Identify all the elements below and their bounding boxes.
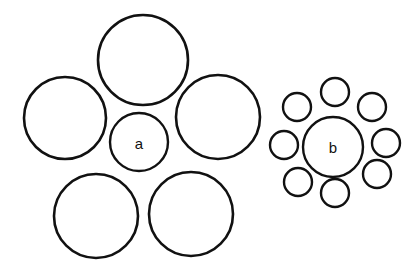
inducer-b-right-circle — [372, 129, 400, 157]
inducer-a-bottom-right-circle — [149, 172, 233, 256]
illusion-figure: ab — [0, 0, 412, 275]
inducer-b-bottom-left-circle — [284, 168, 312, 196]
inducer-b-top-right-circle — [358, 93, 386, 121]
inducer-b-bottom-right-circle — [363, 160, 391, 188]
inducer-b-left-circle — [270, 131, 298, 159]
inducer-a-right-circle — [176, 75, 260, 159]
illusion-canvas: ab — [0, 0, 412, 275]
inducer-b-bottom-circle — [321, 179, 349, 207]
inducer-a-top-circle — [98, 15, 188, 105]
circle-label-a: a — [135, 135, 144, 152]
inducer-a-bottom-left-circle — [54, 174, 138, 258]
inducer-b-top-circle — [321, 78, 349, 106]
inducer-a-left-circle — [24, 77, 106, 159]
inducer-b-top-left-circle — [283, 93, 311, 121]
circle-label-b: b — [329, 139, 337, 156]
